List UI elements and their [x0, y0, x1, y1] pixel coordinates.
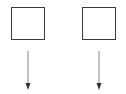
box-left — [11, 7, 45, 40]
down-arrow-icon — [24, 51, 32, 90]
box-right — [82, 7, 116, 40]
down-arrow-icon — [95, 51, 103, 90]
